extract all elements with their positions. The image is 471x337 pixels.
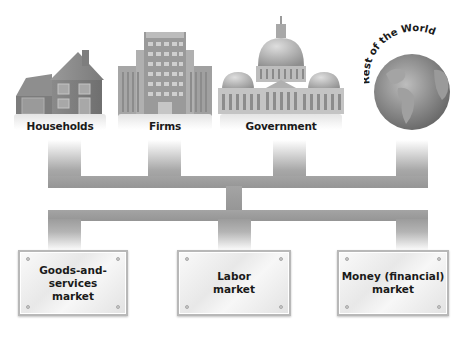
- office-building-icon: [116, 28, 214, 120]
- connector-firms: [148, 140, 181, 180]
- connector-households: [48, 140, 81, 180]
- money-market-line2: market: [342, 283, 445, 296]
- households-sector: Households: [12, 40, 108, 140]
- connector-labor-market: [218, 219, 251, 251]
- screw-icon: [279, 257, 283, 261]
- firms-label: Firms: [116, 120, 214, 132]
- money-financial-market: Money (financial) market: [337, 250, 449, 316]
- labor-market: Labor market: [177, 250, 291, 316]
- screw-icon: [26, 257, 30, 261]
- screw-icon: [437, 257, 441, 261]
- goods-market-line1: Goods-and-services: [20, 264, 126, 290]
- house-icon: [12, 40, 108, 120]
- goods-market-line2: market: [20, 290, 126, 303]
- globe-icon: Rest of the World: [364, 8, 464, 138]
- screw-icon: [185, 305, 189, 309]
- screw-icon: [116, 257, 120, 261]
- goods-and-services-market: Goods-and-services market: [18, 250, 128, 316]
- connector-rest-of-world: [396, 140, 428, 180]
- labor-market-line2: market: [213, 283, 255, 296]
- screw-icon: [437, 305, 441, 309]
- capitol-building-icon: [218, 14, 344, 118]
- central-link: [226, 186, 242, 212]
- screw-icon: [345, 305, 349, 309]
- screw-icon: [345, 257, 349, 261]
- screw-icon: [279, 305, 283, 309]
- households-label: Households: [12, 120, 108, 132]
- screw-icon: [26, 305, 30, 309]
- government-sector: Government: [218, 14, 344, 140]
- connector-goods-market: [48, 219, 81, 251]
- screw-icon: [185, 257, 189, 261]
- government-label: Government: [218, 120, 344, 132]
- rest-of-world-sector: Rest of the World: [364, 8, 464, 138]
- labor-market-line1: Labor: [213, 270, 255, 283]
- firms-sector: Firms: [116, 28, 214, 140]
- screw-icon: [116, 305, 120, 309]
- connector-money-market: [396, 219, 428, 251]
- money-market-line1: Money (financial): [342, 270, 445, 283]
- connector-government: [273, 140, 306, 180]
